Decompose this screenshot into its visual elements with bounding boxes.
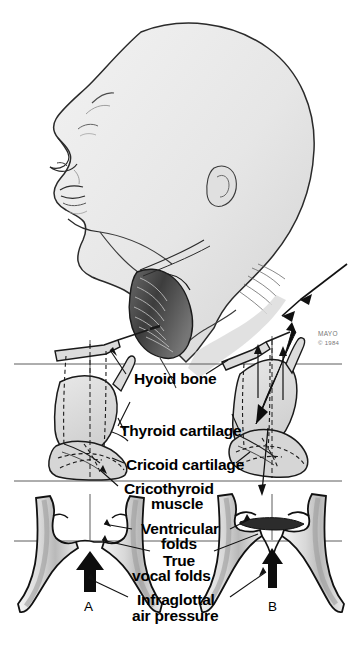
label-hyoid-bone: Hyoid bone [134,371,216,387]
label-cricoid-cartilage: Cricoid cartilage [126,457,244,473]
label-infraglottal-line1: Infraglottal [137,592,215,608]
label-true-vocal-folds-line2: vocal folds [132,568,211,584]
credit-org: MAYO [318,331,338,338]
credit-copyright: © 1984 [318,340,339,346]
label-infraglottal-line2: air pressure [132,608,218,624]
label-cricothyroid-muscle-line2: muscle [151,496,203,512]
panel-label-a: A [84,600,93,614]
panel-label-b: B [268,600,277,614]
label-thyroid-cartilage: Thyroid cartilage [120,423,242,439]
label-ventricular-folds-line2: folds [161,536,197,552]
